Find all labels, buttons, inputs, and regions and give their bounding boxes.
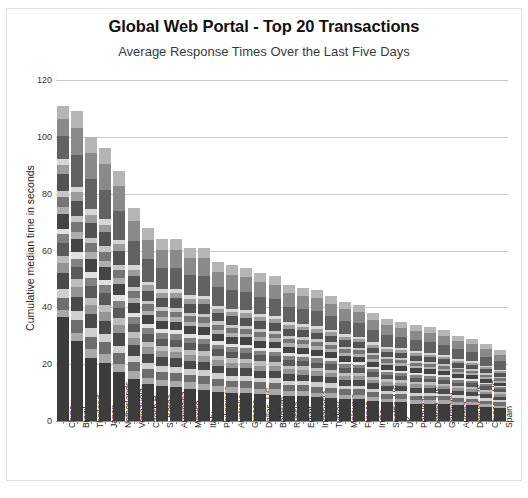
bar-segment (254, 282, 266, 297)
x-tick-mark (91, 421, 92, 424)
bar-india[interactable] (367, 313, 379, 421)
bar-segment (480, 357, 492, 366)
bar-mexico[interactable] (184, 248, 196, 421)
bar-segment (128, 291, 140, 298)
x-tick-mark (289, 421, 290, 424)
bar-segment (198, 248, 210, 259)
bar-segment (156, 250, 168, 268)
bar-segment (71, 297, 83, 311)
bar-segment (297, 288, 309, 296)
bar-brazil[interactable] (71, 111, 83, 421)
bar-segment (57, 214, 69, 228)
bar-segment (113, 325, 125, 334)
bar-segment (240, 292, 252, 310)
x-tick-mark (430, 421, 431, 424)
bar-uk[interactable] (395, 322, 407, 421)
x-tick-mark (472, 421, 473, 424)
bar-segment (57, 119, 69, 136)
bar-segment (71, 128, 83, 155)
bar-segment (466, 352, 478, 361)
bar-greece[interactable] (240, 268, 252, 421)
bar-series: ChinaBrazilThailandJapanNetherlandsVenez… (0, 0, 528, 498)
bar-segment (438, 336, 450, 345)
bar-segment (170, 373, 182, 381)
x-tick-mark (345, 421, 346, 424)
bar-segment (71, 192, 83, 200)
x-tick-mark (246, 421, 247, 424)
bar-segment (85, 314, 97, 328)
bar-segment (283, 329, 295, 336)
bar-segment (311, 290, 323, 298)
bar-segment (57, 256, 69, 263)
bar-segment (142, 378, 154, 385)
bar-segment (57, 136, 69, 159)
bar-segment (198, 362, 210, 370)
bar-segment (170, 239, 182, 250)
bar-segment (85, 223, 97, 238)
bar-segment (240, 368, 252, 375)
bar-segment (71, 320, 83, 333)
bar-segment (71, 259, 83, 268)
bar-segment (254, 273, 266, 282)
bar-segment (113, 364, 125, 372)
bar-segment (85, 215, 97, 223)
bar-segment (212, 262, 224, 272)
bar-segment (325, 304, 337, 316)
bar-segment (128, 303, 140, 313)
bar-segment (113, 171, 125, 186)
bar-segment (395, 328, 407, 338)
bar-russia[interactable] (283, 285, 295, 421)
bar-segment (325, 316, 337, 330)
bar-segment (142, 369, 154, 378)
bar-segment (57, 165, 69, 174)
bar-italy[interactable] (198, 248, 210, 421)
bar-segment (128, 324, 140, 333)
bar-segment (128, 276, 140, 287)
bar-segment (85, 298, 97, 306)
bar-segment (297, 296, 309, 309)
bar-segment (184, 375, 196, 383)
bar-segment (71, 239, 83, 253)
bar-segment (170, 358, 182, 367)
bar-segment (99, 267, 111, 279)
x-tick-mark (63, 421, 64, 424)
bar-segment (198, 304, 210, 313)
bar-segment (99, 148, 111, 164)
bar-japan[interactable] (99, 148, 111, 421)
bar-segment (226, 290, 238, 309)
x-tick-mark (416, 421, 417, 424)
bar-segment (156, 298, 168, 307)
bar-segment (325, 296, 337, 303)
bar-segment (113, 270, 125, 278)
bar-segment (395, 337, 407, 348)
bar-segment (71, 267, 83, 279)
bar-segment (113, 244, 125, 251)
bar-segment (57, 273, 69, 289)
x-tick-mark (232, 421, 233, 424)
bar-segment (198, 258, 210, 275)
bar-segment (339, 309, 351, 321)
bar-segment (297, 330, 309, 337)
bar-segment (367, 330, 379, 342)
bar-segment (156, 357, 168, 366)
bar-segment (424, 333, 436, 342)
bar-egypt[interactable] (297, 287, 309, 421)
bar-segment (269, 276, 281, 285)
bar-china[interactable] (57, 106, 69, 421)
bar-segment (212, 379, 224, 386)
bar-czech-r[interactable] (142, 228, 154, 421)
x-tick-mark (134, 421, 135, 424)
bar-thailand[interactable] (85, 137, 97, 421)
bar-segment (311, 311, 323, 326)
bar-segment (57, 310, 69, 317)
bar-segment (480, 349, 492, 357)
bar-segment (156, 339, 168, 347)
bar-segment (156, 239, 168, 250)
x-tick-mark (387, 421, 388, 424)
bar-segment (367, 320, 379, 330)
bar-segment (99, 252, 111, 261)
bar-segment (184, 361, 196, 369)
bar-segment (381, 335, 393, 347)
bar-segment (283, 293, 295, 306)
bar-segment (85, 305, 97, 314)
